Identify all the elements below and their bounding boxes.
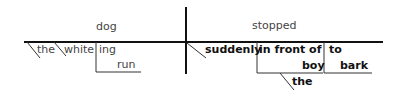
subject-word: dog: [96, 21, 117, 33]
adverb-suddenly-slant: [187, 43, 206, 58]
adverb-suddenly: suddenly: [205, 44, 261, 56]
prep-object-boy: boy: [302, 60, 325, 72]
preposition: in front of: [259, 44, 321, 56]
predicate-word: stopped: [252, 20, 297, 32]
sentence-diagram: dog stopped the white ing run suddenly i…: [0, 0, 400, 94]
infinitive-verb: bark: [340, 60, 368, 72]
prep-object-modifier-the: the: [292, 76, 313, 88]
participle-verb: run: [117, 59, 135, 71]
modifier-white: white: [64, 44, 94, 56]
infinitive-marker: to: [329, 44, 342, 56]
participle-suffix: ing: [99, 44, 116, 56]
modifier-the: the: [37, 44, 55, 56]
